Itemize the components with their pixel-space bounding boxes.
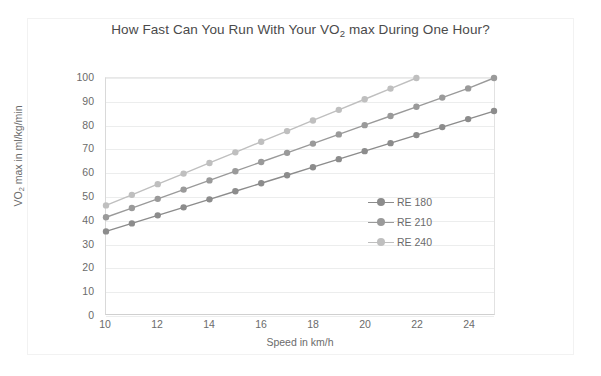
data-point bbox=[387, 113, 393, 119]
data-point bbox=[491, 108, 497, 114]
data-point bbox=[258, 139, 264, 145]
data-point bbox=[310, 164, 316, 170]
y-tick-label: 70 bbox=[82, 142, 94, 154]
y-tick-label: 10 bbox=[82, 285, 94, 297]
data-point bbox=[413, 132, 419, 138]
data-point bbox=[439, 94, 445, 100]
y-axis-title-tail: max in ml/kg/min bbox=[12, 105, 24, 187]
legend-label-re-180: RE 180 bbox=[397, 196, 432, 208]
y-tick-label: 50 bbox=[82, 190, 94, 202]
x-tick-label: 10 bbox=[99, 318, 111, 330]
legend: RE 180 RE 210 RE 240 bbox=[368, 192, 450, 252]
data-point bbox=[387, 140, 393, 146]
data-point bbox=[439, 124, 445, 130]
data-point bbox=[103, 202, 109, 208]
y-tick-label: 20 bbox=[82, 261, 94, 273]
data-point bbox=[491, 75, 497, 81]
data-point bbox=[103, 228, 109, 234]
chart-title: How Fast Can You Run With Your VO2 max D… bbox=[0, 22, 601, 37]
data-point bbox=[284, 172, 290, 178]
y-tick-label: 80 bbox=[82, 119, 94, 131]
legend-item-re-240[interactable]: RE 240 bbox=[368, 232, 450, 252]
chart-title-tail: max During One Hour? bbox=[345, 22, 490, 37]
x-axis-tick-labels: 1012141618202224 bbox=[105, 318, 495, 334]
y-tick-label: 0 bbox=[88, 309, 94, 321]
y-tick-label: 90 bbox=[82, 95, 94, 107]
data-point bbox=[129, 220, 135, 226]
data-point bbox=[284, 150, 290, 156]
legend-label-re-210: RE 210 bbox=[397, 216, 432, 228]
chart-title-main: How Fast Can You Run With Your VO bbox=[111, 22, 339, 37]
x-axis-title: Speed in km/h bbox=[105, 336, 495, 348]
data-point bbox=[232, 188, 238, 194]
y-tick-label: 30 bbox=[82, 238, 94, 250]
data-point bbox=[180, 204, 186, 210]
data-point bbox=[103, 214, 109, 220]
data-point bbox=[129, 192, 135, 198]
y-tick-label: 60 bbox=[82, 166, 94, 178]
x-tick-label: 14 bbox=[203, 318, 215, 330]
data-point bbox=[284, 128, 290, 134]
data-point bbox=[465, 85, 471, 91]
x-tick-label: 24 bbox=[463, 318, 475, 330]
data-point bbox=[155, 181, 161, 187]
chart-title-subscript: 2 bbox=[340, 28, 345, 39]
data-point bbox=[336, 131, 342, 137]
x-tick-label: 16 bbox=[255, 318, 267, 330]
data-point bbox=[465, 116, 471, 122]
data-point bbox=[180, 186, 186, 192]
y-tick-label: 40 bbox=[82, 214, 94, 226]
data-point bbox=[206, 160, 212, 166]
data-point bbox=[336, 107, 342, 113]
y-axis-title-subscript: 2 bbox=[17, 187, 26, 191]
data-point bbox=[310, 140, 316, 146]
data-point bbox=[232, 149, 238, 155]
data-point bbox=[361, 96, 367, 102]
series-re-240 bbox=[103, 75, 420, 209]
gridline bbox=[106, 316, 494, 317]
legend-label-re-240: RE 240 bbox=[397, 236, 432, 248]
x-tick-label: 20 bbox=[359, 318, 371, 330]
data-point bbox=[413, 75, 419, 81]
legend-item-re-180[interactable]: RE 180 bbox=[368, 192, 450, 212]
data-point bbox=[155, 196, 161, 202]
data-point bbox=[180, 170, 186, 176]
legend-marker-icon-re-210 bbox=[368, 216, 394, 228]
y-tick-label: 100 bbox=[76, 71, 94, 83]
x-tick-label: 12 bbox=[151, 318, 163, 330]
data-point bbox=[361, 122, 367, 128]
data-point bbox=[206, 196, 212, 202]
data-point bbox=[206, 177, 212, 183]
y-axis-title: VO2 max in ml/kg/min bbox=[12, 76, 24, 236]
chart-screenshot: How Fast Can You Run With Your VO2 max D… bbox=[0, 0, 601, 376]
data-point bbox=[336, 156, 342, 162]
y-axis-tick-labels: 0102030405060708090100 bbox=[60, 77, 100, 315]
legend-item-re-210[interactable]: RE 210 bbox=[368, 212, 450, 232]
data-point bbox=[258, 159, 264, 165]
x-tick-label: 22 bbox=[411, 318, 423, 330]
data-point bbox=[387, 85, 393, 91]
y-axis-title-main: VO bbox=[12, 191, 24, 206]
data-point bbox=[232, 168, 238, 174]
data-point bbox=[310, 117, 316, 123]
legend-marker-icon-re-240 bbox=[368, 236, 394, 248]
legend-marker-icon-re-180 bbox=[368, 196, 394, 208]
data-point bbox=[155, 212, 161, 218]
data-point bbox=[413, 104, 419, 110]
x-tick-label: 18 bbox=[307, 318, 319, 330]
data-point bbox=[361, 148, 367, 154]
data-point bbox=[129, 205, 135, 211]
data-point bbox=[258, 180, 264, 186]
